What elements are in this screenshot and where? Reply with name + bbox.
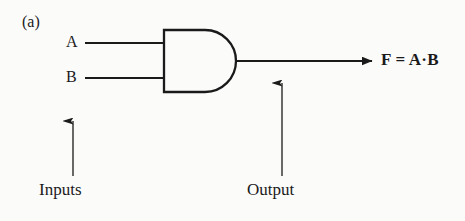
and-gate-icon: [164, 30, 236, 92]
inputs-caption: Inputs: [39, 181, 82, 198]
logic-gate-figure: (a) A B F = A·B Inputs Output: [0, 0, 465, 221]
output-expression: F = A·B: [381, 51, 439, 68]
input-label-b: B: [66, 69, 77, 85]
panel-label: (a): [22, 14, 40, 30]
output-caption: Output: [247, 181, 294, 198]
input-label-a: A: [66, 34, 78, 50]
